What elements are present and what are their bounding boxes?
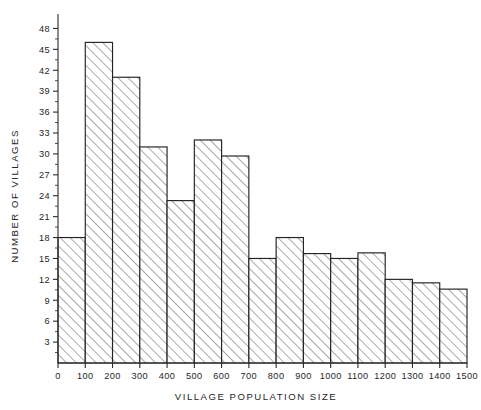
x-tick-label: 1500 <box>456 371 478 381</box>
x-tick-label: 900 <box>295 371 312 381</box>
x-tick-label: 500 <box>186 371 203 381</box>
histogram-bar <box>222 156 249 363</box>
y-tick-label: 45 <box>39 45 50 55</box>
x-tick-label: 700 <box>241 371 258 381</box>
y-tick-label: 21 <box>39 212 50 222</box>
histogram-bar <box>412 283 439 363</box>
y-axis-title: NUMBER OF VILLAGES <box>9 129 20 263</box>
histogram-bar <box>194 140 221 363</box>
x-tick-label: 200 <box>104 371 121 381</box>
x-tick-label: 300 <box>132 371 149 381</box>
histogram-bar <box>167 201 194 363</box>
y-tick-label: 15 <box>39 254 50 264</box>
x-tick-label: 1000 <box>320 371 342 381</box>
x-tick-label: 1300 <box>401 371 423 381</box>
x-tick-label: 1400 <box>429 371 451 381</box>
histogram-bar <box>440 289 467 363</box>
histogram-bar <box>113 77 140 363</box>
x-tick-label: 100 <box>77 371 94 381</box>
histogram-bar <box>58 238 85 363</box>
x-tick-label: 1200 <box>374 371 396 381</box>
x-tick-label: 800 <box>268 371 285 381</box>
y-tick-label: 12 <box>39 275 50 285</box>
histogram-bar <box>140 147 167 363</box>
histogram-bar <box>276 238 303 363</box>
chart-canvas: 36912151821242730333639424548 0100200300… <box>0 0 481 410</box>
y-tick-label: 9 <box>44 296 50 306</box>
histogram-bar <box>331 258 358 363</box>
y-tick-label: 18 <box>39 233 50 243</box>
histogram-bar <box>385 279 412 363</box>
histogram-bar <box>249 258 276 363</box>
y-tick-label: 33 <box>39 128 50 138</box>
x-tick-label: 1100 <box>347 371 368 381</box>
y-tick-label: 39 <box>39 86 50 96</box>
x-tick-label: 400 <box>159 371 176 381</box>
y-tick-label: 3 <box>44 337 50 347</box>
x-axis-title: VILLAGE POPULATION SIZE <box>175 391 337 402</box>
histogram-chart: 36912151821242730333639424548 0100200300… <box>0 0 481 410</box>
y-tick-label: 27 <box>39 170 50 180</box>
y-tick-label: 30 <box>39 149 50 159</box>
y-tick-label: 24 <box>39 191 50 201</box>
x-tick-label: 0 <box>55 371 61 381</box>
x-tick-label: 600 <box>213 371 230 381</box>
y-tick-label: 6 <box>44 316 50 326</box>
y-tick-label: 48 <box>39 24 50 34</box>
histogram-bar <box>303 254 330 363</box>
y-tick-label: 42 <box>39 66 50 76</box>
histogram-bar <box>85 42 112 363</box>
histogram-bar <box>358 253 385 363</box>
y-tick-label: 36 <box>39 107 50 117</box>
